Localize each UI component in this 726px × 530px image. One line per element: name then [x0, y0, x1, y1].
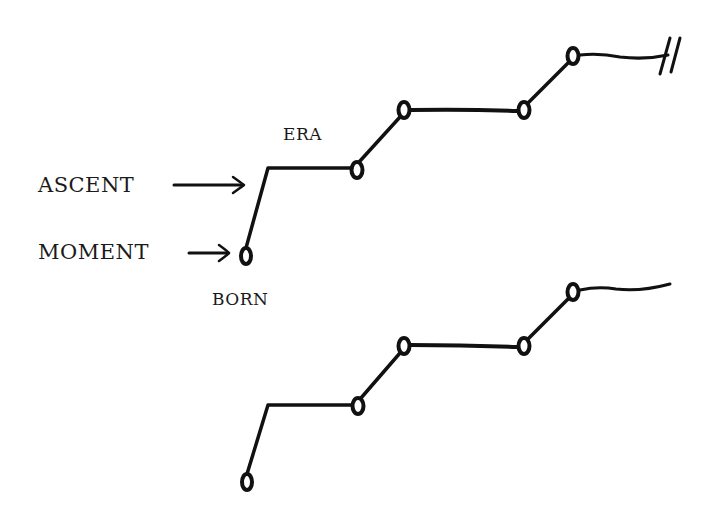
bottom-timeline [247, 284, 670, 474]
node-icon [352, 162, 363, 178]
node-icon [399, 338, 410, 354]
top-timeline [246, 38, 680, 248]
node-icon [519, 338, 530, 354]
node-icon [353, 398, 364, 414]
node-icon [399, 102, 410, 118]
bottom-nodes [242, 284, 579, 490]
node-icon [568, 48, 579, 64]
top-nodes [241, 48, 579, 264]
node-icon [519, 102, 530, 118]
moment-arrow [189, 245, 229, 261]
node-icon [568, 284, 579, 300]
node-born-icon [241, 248, 251, 264]
node-icon [242, 474, 252, 490]
timeline-diagram [0, 0, 726, 530]
ascent-arrow [174, 177, 244, 193]
